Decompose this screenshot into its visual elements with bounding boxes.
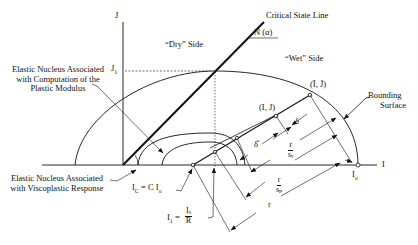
n-alpha-label: N (α) <box>254 28 272 38</box>
delta-hat-label: δ̂ <box>254 140 258 150</box>
r-over-sv-dimension <box>251 160 270 172</box>
r-dimension <box>231 213 256 230</box>
dry-side-label: “Dry” Side <box>165 40 203 50</box>
i-axis-label: I <box>382 160 385 170</box>
radial-line-nucleus <box>210 115 276 148</box>
r-over-sp-dimension <box>246 182 265 197</box>
nucleus-viscoplastic-label: Elastic Nucleus Associated with Viscopla… <box>8 174 106 193</box>
image-point-label: (Ī, J̄) <box>310 80 326 90</box>
delta-dimension <box>273 127 291 139</box>
nucleus-plastic-label: Elastic Nucleus Associated with Computat… <box>10 65 106 94</box>
j-axis-label: J <box>115 11 118 21</box>
j1-label: J1 <box>111 64 117 77</box>
i0-label: Io <box>352 170 358 183</box>
critical-state-line-label: Critical State Line <box>266 11 328 21</box>
r-over-sp-label: r sₚ <box>276 176 282 194</box>
bounding-surface-label: Bounding Surface <box>368 90 406 110</box>
point-i0 <box>356 163 360 167</box>
wet-side-label: “Wet” Side <box>285 54 323 64</box>
alpha-angle-arc <box>135 155 138 165</box>
r-label: r <box>268 200 271 210</box>
leader-nucleus-viscoplastic <box>110 170 136 181</box>
nucleus-plastic-arc <box>138 133 245 165</box>
current-state-label: (I, J) <box>259 103 275 113</box>
i1-equation: I1 = <box>167 213 180 226</box>
leader-bounding-surface <box>344 97 370 119</box>
delta-label: δ <box>295 117 299 127</box>
leader-ic <box>176 169 192 191</box>
r-over-sv-label: r sᵥ <box>288 141 293 159</box>
i1-fraction: Iₒ R <box>185 207 192 225</box>
leader-i1 <box>208 168 214 218</box>
bounding-surface-diagram <box>0 0 418 245</box>
ic-equation: IC = C Io <box>132 183 162 196</box>
